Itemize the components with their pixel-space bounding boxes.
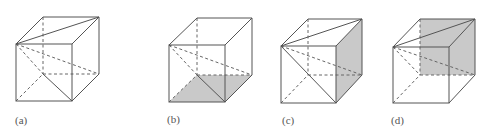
cube-c (281, 19, 362, 103)
panel-label-a: (a) (15, 114, 27, 126)
panel-label-d: (d) (391, 114, 404, 126)
cube-a (16, 17, 99, 101)
cube-figure (0, 0, 489, 134)
shaded-right-face (336, 19, 362, 103)
panel-label-c: (c) (282, 114, 294, 126)
cube-b (169, 18, 252, 102)
cube-d (393, 19, 475, 103)
panel-label-b: (b) (167, 113, 180, 125)
